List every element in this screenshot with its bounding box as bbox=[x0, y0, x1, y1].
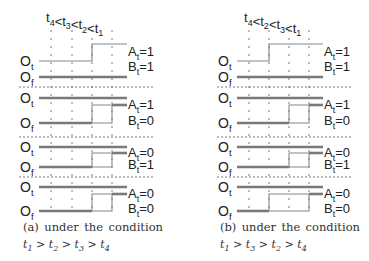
ot-label: Ot bbox=[218, 90, 232, 109]
b-output-label: Bt=1 bbox=[128, 59, 154, 77]
caption-word: condition bbox=[306, 218, 360, 236]
b-output-label: Bt=0 bbox=[324, 113, 350, 131]
caption-a-condition: t1 > t2 > t3 > t4 bbox=[23, 236, 163, 258]
transition-box bbox=[269, 194, 309, 211]
caption-word: under bbox=[44, 218, 78, 236]
caption-word: condition bbox=[109, 218, 163, 236]
ot-step-signal bbox=[39, 44, 127, 61]
b-output-label: Bt=1 bbox=[128, 157, 154, 175]
of-label: Of bbox=[20, 115, 34, 134]
a-output-label: At=1 bbox=[324, 97, 350, 115]
ot-label: Ot bbox=[20, 139, 34, 158]
caption-a-line1: (a) under the condition bbox=[23, 218, 163, 236]
b-output-label: Bt=1 bbox=[324, 59, 350, 77]
caption-word: the bbox=[281, 218, 300, 236]
caption-b-condition: t1 > t3 > t2 > t4 bbox=[220, 236, 360, 258]
of-label: Of bbox=[20, 159, 34, 178]
ot-label: Ot bbox=[20, 90, 34, 109]
caption-word: the bbox=[84, 218, 103, 236]
transition-box bbox=[92, 105, 112, 123]
b-output-label: Bt=0 bbox=[324, 201, 350, 219]
of-label: Of bbox=[218, 115, 232, 134]
b-output-label: Bt=1 bbox=[324, 157, 350, 175]
ot-label: Ot bbox=[218, 139, 232, 158]
caption-word: under bbox=[242, 218, 276, 236]
ordering-title-b: t4<t2<t3<t1 bbox=[244, 10, 301, 38]
caption-b-line1: (b) under the condition bbox=[220, 218, 360, 236]
transition-box bbox=[289, 153, 309, 167]
transition-box bbox=[289, 105, 309, 123]
ot-step-signal bbox=[237, 44, 323, 61]
b-output-label: Bt=0 bbox=[128, 113, 154, 131]
caption-b: (b) under the condition t1 > t3 > t2 > t… bbox=[220, 218, 360, 258]
caption-a: (a) under the condition t1 > t2 > t3 > t… bbox=[23, 218, 163, 258]
ot-label: Ot bbox=[218, 179, 232, 198]
ordering-title-a: t4<t3<t2<t1 bbox=[46, 10, 103, 38]
of-label: Of bbox=[218, 159, 232, 178]
ot-label: Ot bbox=[20, 179, 34, 198]
a-output-label: At=1 bbox=[128, 97, 154, 115]
caption-word: (b) bbox=[220, 218, 236, 236]
caption-word: (a) bbox=[23, 218, 39, 236]
b-output-label: Bt=0 bbox=[128, 201, 154, 219]
transition-box bbox=[92, 153, 112, 167]
transition-box bbox=[92, 194, 112, 211]
